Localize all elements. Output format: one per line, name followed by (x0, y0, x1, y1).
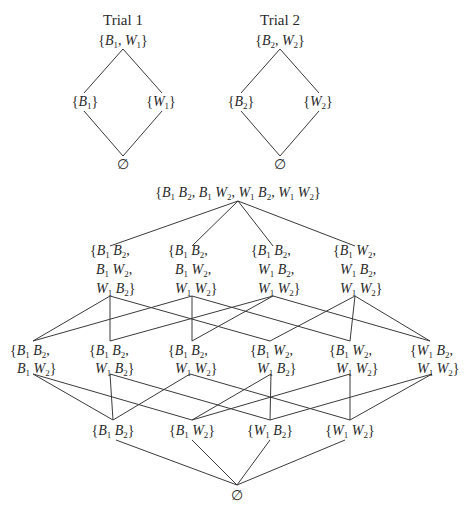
svg-text:{B1 W2,: {B1 W2, (329, 343, 372, 360)
edge (123, 49, 162, 93)
svg-text:W1 W2}: W1 W2} (336, 361, 379, 378)
edge (84, 111, 123, 156)
pair-node-5: {B1 W2, W1 W2} (329, 343, 379, 378)
svg-text:{B1 B2,: {B1 B2, (10, 343, 50, 360)
trial-2-empty-set-node: ∅ (274, 157, 286, 172)
trial-1-empty-set-node: ∅ (117, 157, 129, 172)
svg-text:{W1 B2,: {W1 B2, (410, 343, 453, 360)
trial-1-right-node: {W1} (146, 94, 176, 111)
svg-text:W1 W2}: W1 W2} (175, 281, 218, 298)
lattice-empty-set-node: ∅ (231, 488, 243, 503)
trial-2-title: Trial 2 (260, 12, 300, 28)
svg-text:{B1 B2,: {B1 B2, (251, 243, 291, 260)
svg-text:W1 W2}: W1 W2} (258, 281, 301, 298)
pair-node-6: {W1 B2, W1 W2} (410, 343, 460, 378)
svg-text:B1 W2,: B1 W2, (175, 262, 211, 279)
singleton-node-3: {W1 B2} (247, 423, 293, 440)
lattice-diagram: Trial 1 {B1, W1} {B1} {W1} ∅ Trial 2 {B2… (0, 0, 473, 518)
trial-1-diamond: Trial 1 {B1, W1} {B1} {W1} ∅ (72, 12, 176, 172)
triple-node-3: {B1 B2, W1 B2, W1 W2} (251, 243, 301, 298)
svg-text:W1 W2}: W1 W2} (175, 361, 218, 378)
edge (241, 49, 280, 93)
svg-text:{B1 B2,: {B1 B2, (168, 243, 208, 260)
svg-text:{B1 W2,: {B1 W2, (250, 343, 293, 360)
singleton-node-4: {W1 W2} (325, 423, 374, 440)
svg-text:W1 W2}: W1 W2} (340, 281, 383, 298)
edge (241, 111, 280, 156)
svg-text:B1 W2,: B1 W2, (96, 262, 132, 279)
svg-text:W1 B2,: W1 B2, (258, 262, 294, 279)
trial-2-diamond: Trial 2 {B2, W2} {B2} {W2} ∅ (228, 12, 333, 172)
svg-text:W1 B2}: W1 B2} (257, 361, 296, 378)
trial-1-left-node: {B1} (72, 94, 99, 111)
trial-1-top-node: {B1, W1} (98, 33, 148, 50)
svg-text:B1 W2}: B1 W2} (17, 361, 56, 378)
svg-text:W1 B2,: W1 B2, (340, 262, 376, 279)
svg-text:{B1 W2,: {B1 W2, (333, 243, 376, 260)
triple-node-4: {B1 W2, W1 B2, W1 W2} (333, 243, 383, 298)
pair-node-4: {B1 W2, W1 B2} (250, 343, 296, 378)
edge (84, 49, 123, 93)
singleton-node-1: {B1 B2} (91, 423, 134, 440)
trial-1-title: Trial 1 (103, 12, 143, 28)
lattice-top-node: {B1 B2, B1 W2, W1 B2, W1 W2} (155, 185, 320, 202)
svg-text:{B1 B2,: {B1 B2, (90, 243, 130, 260)
trial-2-top-node: {B2, W2} (255, 33, 305, 50)
pair-node-1: {B1 B2, B1 W2} (10, 343, 56, 378)
svg-text:W1 W2}: W1 W2} (417, 361, 460, 378)
edge (123, 111, 162, 156)
trial-2-left-node: {B2} (228, 94, 255, 111)
svg-text:W1 B2}: W1 B2} (96, 281, 135, 298)
svg-text:{B1 B2,: {B1 B2, (89, 343, 129, 360)
edge (280, 49, 319, 93)
pair-node-2: {B1 B2, W1 B2} (89, 343, 134, 378)
pair-node-3: {B1 B2, W1 W2} (168, 343, 218, 378)
svg-text:W1 B2}: W1 B2} (95, 361, 134, 378)
triple-node-2: {B1 B2, B1 W2, W1 W2} (168, 243, 218, 298)
svg-text:{B1 B2,: {B1 B2, (168, 343, 208, 360)
edge (280, 111, 319, 156)
singleton-node-2: {B1 W2} (169, 423, 215, 440)
trial-2-right-node: {W2} (303, 94, 333, 111)
triple-node-1: {B1 B2, B1 W2, W1 B2} (90, 243, 135, 298)
